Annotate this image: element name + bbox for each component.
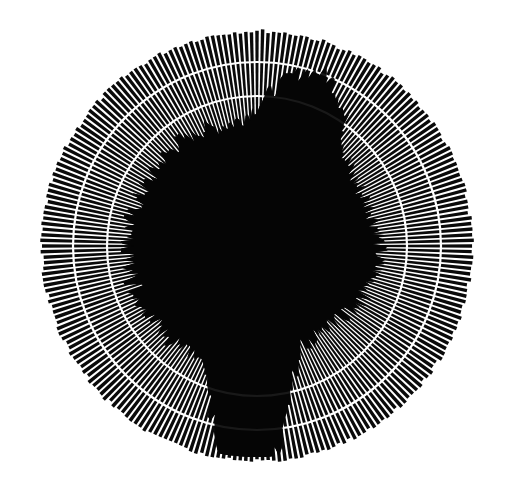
radial-starburst-image bbox=[0, 0, 510, 495]
